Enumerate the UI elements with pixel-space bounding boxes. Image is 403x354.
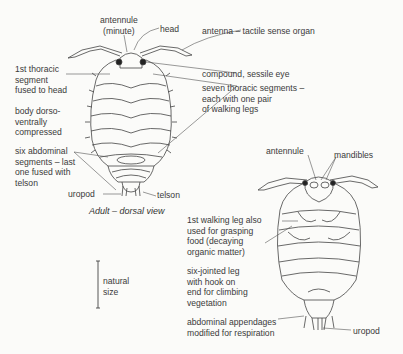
label-line: organic matter) bbox=[187, 247, 262, 258]
label-line: 1st walking leg also bbox=[187, 215, 262, 226]
label-telson: telson bbox=[157, 190, 180, 201]
label-line: six abdominal bbox=[15, 146, 75, 157]
label-line: each with one pair bbox=[202, 94, 304, 105]
dorsal-woodlouse-icon bbox=[68, 46, 192, 196]
label-line: used for grasping bbox=[187, 226, 262, 237]
label-line: 1st thoracic bbox=[15, 64, 67, 75]
label-line: modified for respiration bbox=[187, 328, 276, 339]
label-line: body dorso- bbox=[15, 106, 62, 117]
label-line: ventrally bbox=[15, 117, 62, 128]
label-first-thoracic: 1st thoracic segment fused to head bbox=[15, 64, 67, 96]
label-body: body dorso- ventrally compressed bbox=[15, 106, 62, 138]
label-line: one fused with bbox=[15, 167, 75, 178]
label-line: of walking legs bbox=[202, 104, 304, 115]
label-first-walking-leg: 1st walking leg also used for grasping f… bbox=[187, 215, 262, 257]
label-thoracic-segments: seven thoracic segments – each with one … bbox=[202, 83, 304, 115]
label-line: size bbox=[103, 287, 129, 298]
scale-bar-icon bbox=[96, 261, 100, 308]
label-line: compressed bbox=[15, 127, 62, 138]
label-line: segments – last bbox=[15, 157, 75, 168]
label-antennule-dorsal: antennule (minute) bbox=[100, 15, 138, 36]
label-abdominal-appendages: abdominal appendages modified for respir… bbox=[187, 317, 276, 338]
label-natural-size: natural size bbox=[103, 276, 129, 297]
label-abdominal: six abdominal segments – last one fused … bbox=[15, 146, 75, 188]
label-line: food (decaying bbox=[187, 236, 262, 247]
label-line: natural bbox=[103, 276, 129, 287]
label-mandibles: mandibles bbox=[334, 150, 373, 161]
label-line: vegetation bbox=[187, 298, 248, 309]
label-line: six-jointed leg bbox=[187, 266, 248, 277]
label-uropod-ventral: uropod bbox=[353, 326, 380, 337]
label-line: fused to head bbox=[15, 85, 67, 96]
label-line: seven thoracic segments – bbox=[202, 83, 304, 94]
woodlouse-diagram: antennule (minute) head antenna – tactil… bbox=[0, 0, 403, 354]
label-six-jointed-leg: six-jointed leg with hook on end for cli… bbox=[187, 266, 248, 308]
label-head: head bbox=[160, 24, 179, 35]
label-line: with hook on bbox=[187, 277, 248, 288]
label-line: segment bbox=[15, 75, 67, 86]
ventral-woodlouse-icon bbox=[258, 176, 378, 330]
label-line: (minute) bbox=[100, 26, 138, 37]
label-antenna: antenna – tactile sense organ bbox=[202, 26, 315, 37]
label-line: abdominal appendages bbox=[187, 317, 276, 328]
label-line: telson bbox=[15, 178, 75, 189]
label-eye: compound, sessile eye bbox=[202, 69, 289, 80]
label-antennule-ventral: antennule bbox=[266, 146, 304, 157]
caption-dorsal-view: Adult – dorsal view bbox=[89, 206, 165, 216]
label-uropod-dorsal: uropod bbox=[68, 189, 95, 200]
label-line: end for climbing bbox=[187, 287, 248, 298]
label-line: antennule bbox=[100, 15, 138, 26]
